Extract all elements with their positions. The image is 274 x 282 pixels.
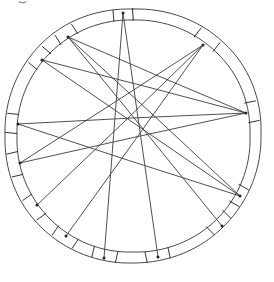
stray-pen-stroke-icon — [19, 2, 26, 3]
stray-mark-group — [19, 2, 26, 3]
vertex-dot-v5 — [157, 256, 160, 259]
vertex-dot-v1 — [202, 44, 205, 47]
vertex-dot-v0 — [122, 12, 125, 15]
figure-canvas: Hand-drawn circular chord diagram A hand… — [0, 0, 274, 282]
chord-v1-v9 — [20, 45, 203, 163]
vertex-dot-v10 — [17, 123, 20, 126]
vertex-dot-v3 — [239, 195, 242, 198]
vertex-dot-v9 — [19, 162, 22, 165]
tick-v11 — [29, 47, 51, 70]
vertex-dot-v8 — [36, 204, 39, 207]
vertex-dot-v6 — [103, 257, 106, 260]
chord-v2-v11 — [42, 60, 246, 113]
chord-diagram-svg — [0, 0, 274, 282]
chord-v1-v8 — [37, 45, 203, 205]
chord-v2-v9 — [20, 113, 246, 163]
chord-v1-v7 — [66, 45, 203, 236]
chord-v0-v5 — [123, 13, 158, 257]
chord-v0-v6 — [104, 13, 123, 258]
chord-v4-v12 — [68, 37, 222, 226]
vertex-dot-v4 — [221, 225, 224, 228]
chord-v3-v11 — [42, 60, 240, 196]
chord-v10-v3 — [18, 124, 240, 196]
chord-v3-v12 — [68, 37, 240, 196]
vertex-dot-v7 — [65, 235, 68, 238]
tick-v8 — [23, 194, 46, 220]
vertex-dot-v11 — [41, 59, 44, 62]
vertex-dot-v2 — [245, 112, 248, 115]
vertex-dot-v12 — [67, 36, 70, 39]
chord-v2-v12 — [68, 37, 246, 113]
